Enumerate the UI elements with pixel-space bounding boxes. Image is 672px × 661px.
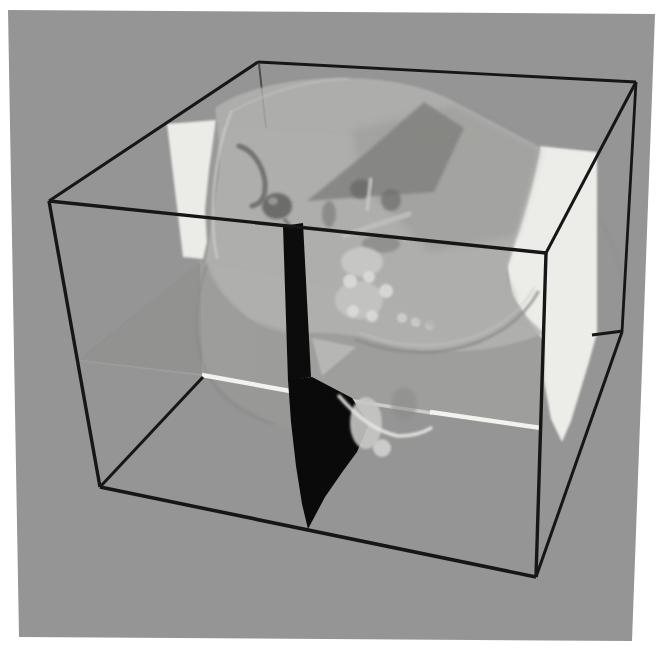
lip-bone-knob bbox=[373, 439, 391, 457]
tooth-knob-4 bbox=[347, 305, 359, 317]
maxilla-mass bbox=[341, 247, 383, 277]
figure-canvas bbox=[0, 0, 672, 661]
nasal-cavity bbox=[322, 201, 336, 227]
right-orbit-recess bbox=[381, 189, 401, 211]
tooth-knob-1 bbox=[343, 274, 357, 288]
tooth-knob-5 bbox=[366, 310, 378, 322]
left-eye-socket-inner bbox=[268, 197, 278, 205]
tooth-knob-2 bbox=[363, 271, 375, 283]
left-eye-socket bbox=[262, 193, 292, 219]
tooth-knob-3 bbox=[379, 284, 393, 298]
chin-shadow bbox=[391, 387, 417, 421]
molar-1 bbox=[397, 313, 407, 323]
medical-volume-figure bbox=[0, 0, 672, 661]
